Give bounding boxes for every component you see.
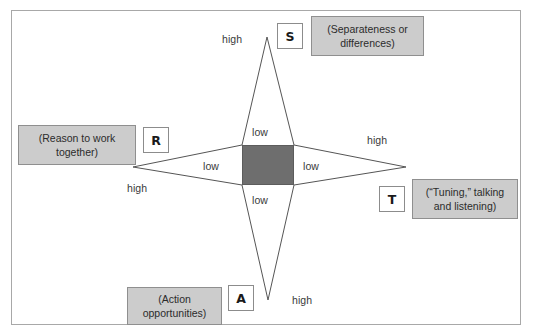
label-high-left: high (127, 182, 147, 194)
caption-tuning: (“Tuning,” talking and listening) (412, 179, 518, 219)
axis-letter-a: A (228, 285, 254, 311)
axis-line-s-right (267, 37, 294, 145)
axis-letter-r: R (143, 127, 169, 153)
caption-action-line1: (Action (158, 293, 191, 305)
axis-letter-s: S (277, 23, 303, 49)
caption-tuning-line2: and listening) (434, 200, 496, 212)
caption-separateness: (Separateness or differences) (311, 16, 424, 56)
label-high-bottom: high (292, 294, 312, 306)
caption-reason: (Reason to work together) (18, 125, 136, 165)
label-high-right: high (367, 134, 387, 146)
label-low-bottom: low (252, 194, 268, 206)
caption-reason-line1: (Reason to work (39, 132, 115, 144)
axis-letter-t: T (379, 186, 405, 212)
label-low-left: low (203, 160, 219, 172)
diagram-stage: high high high high low low low low S R … (0, 0, 534, 336)
caption-tuning-line1: (“Tuning,” talking (426, 186, 504, 198)
caption-action-line2: opportunities) (143, 307, 207, 319)
caption-reason-line2: together) (56, 146, 98, 158)
center-square (242, 145, 294, 185)
label-low-right: low (303, 160, 319, 172)
caption-action: (Action opportunities) (127, 287, 222, 325)
axis-line-a-right (268, 185, 294, 300)
caption-separateness-line2: differences) (340, 37, 395, 49)
label-low-top: low (252, 126, 268, 138)
label-high-top: high (222, 33, 242, 45)
axis-line-r-bottom (133, 167, 242, 185)
caption-separateness-line1: (Separateness or (327, 23, 408, 35)
